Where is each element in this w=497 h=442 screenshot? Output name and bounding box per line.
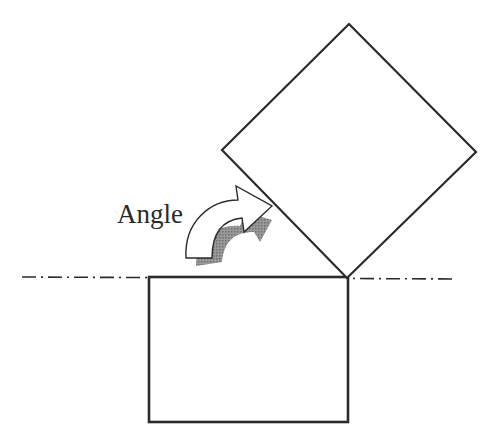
diagram-canvas: Angle (0, 0, 497, 442)
angle-label: Angle (117, 199, 183, 229)
diagram-svg: Angle (0, 0, 497, 442)
base-rectangle (149, 277, 348, 422)
curved-arrow-icon (186, 186, 272, 266)
